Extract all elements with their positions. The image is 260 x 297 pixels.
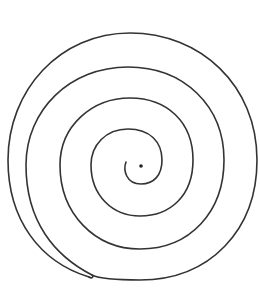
spiral-line — [26, 67, 224, 278]
spiral-drawing — [0, 0, 260, 297]
center-dot — [139, 164, 143, 168]
spiral-icon — [0, 0, 260, 297]
spiral-outer-line — [8, 33, 257, 280]
